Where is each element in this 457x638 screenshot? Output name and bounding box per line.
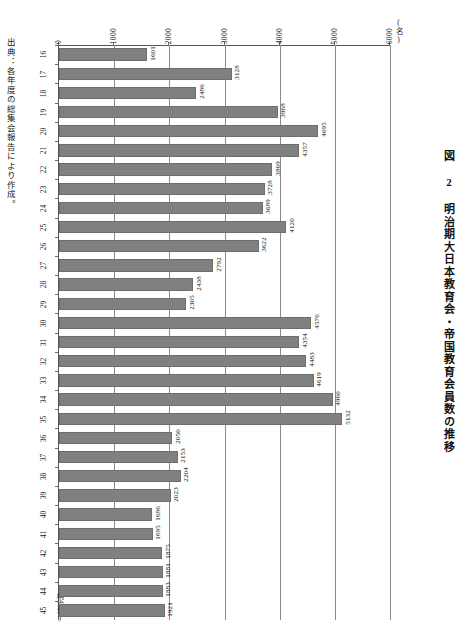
category-label: 40 [39,505,55,524]
category-tick [55,352,59,353]
bar[interactable] [59,528,153,540]
bar[interactable] [59,48,147,60]
value-axis-unit-label: (名) [393,18,404,44]
bar-value-label: 1921 [166,602,174,617]
category-tick [55,122,59,123]
value-axis-tick-label: 4000 [275,28,284,44]
bar-value-label: 3728 [266,180,274,195]
chart-row: 344960 [59,390,390,409]
bar[interactable] [59,163,272,175]
category-tick [55,428,59,429]
bar-value-label: 1881 [164,563,172,578]
category-label: 41 [39,525,55,544]
value-axis-tick-label: 2000 [164,28,173,44]
bar-value-label: 5132 [344,410,352,425]
bar[interactable] [59,202,263,214]
chart-row: 233728 [59,179,390,198]
bar[interactable] [59,259,213,271]
chart-row: 441883 [59,582,390,601]
category-label: 29 [39,295,55,314]
category-tick [55,141,59,142]
category-tick [55,313,59,314]
bar-value-label: 2792 [215,257,223,272]
category-tick [55,45,59,46]
value-axis-tick-label: 5000 [330,28,339,44]
bar[interactable] [59,547,162,559]
category-tick [55,237,59,238]
bar[interactable] [59,566,163,578]
category-tick [55,294,59,295]
bar-value-label: 4357 [301,142,309,157]
bar-value-label: 2023 [172,487,180,502]
bar[interactable] [59,413,342,425]
bar[interactable] [59,221,286,233]
bar[interactable] [59,374,314,386]
bar[interactable] [59,470,181,482]
bar[interactable] [59,508,152,520]
chart-row: 193968 [59,103,390,122]
chart-row: 161601 [59,45,390,64]
category-label: 37 [39,448,55,467]
chart-row: 263622 [59,237,390,256]
category-label: 18 [39,84,55,103]
bar[interactable] [59,451,178,463]
category-label: 26 [39,237,55,256]
chart-row: 401686 [59,505,390,524]
bar[interactable] [59,278,193,290]
category-tick [55,333,59,334]
bar-value-label: 3869 [274,161,282,176]
category-label: 30 [39,314,55,333]
category-tick [55,256,59,257]
category-tick [55,160,59,161]
chart-row: 282438 [59,275,390,294]
category-label: 33 [39,371,55,390]
bar-value-label: 4120 [288,218,296,233]
bar-value-label: 4960 [334,391,342,406]
bar[interactable] [59,432,172,444]
value-axis-tick-label: 1000 [109,28,118,44]
bar[interactable] [59,393,333,405]
bar[interactable] [59,298,186,310]
category-label: 16 [39,45,55,64]
chart-row: 182486 [59,83,390,102]
chart-row: 362050 [59,428,390,447]
chart-row: 223869 [59,160,390,179]
bar[interactable] [59,489,171,501]
bar[interactable] [59,355,306,367]
figure-title: 図 2 明治期大日本教育会・帝国教育会員数の推移 [443,150,455,453]
category-tick [55,543,59,544]
bar-value-label: 4576 [313,314,321,329]
bar[interactable] [59,336,299,348]
category-tick [55,601,59,602]
category-label: 35 [39,410,55,429]
chart-row: 304576 [59,313,390,332]
bar[interactable] [59,144,299,156]
category-tick [55,390,59,391]
category-label: 34 [39,390,55,409]
chart-row: 372153 [59,448,390,467]
category-label: 31 [39,333,55,352]
chart-row: 314354 [59,333,390,352]
bar-value-label: 4483 [308,352,316,367]
bar-value-label: 1875 [164,544,172,559]
category-tick [55,218,59,219]
bar[interactable] [59,240,259,252]
bar[interactable] [59,183,265,195]
bar-value-label: 2204 [182,467,190,482]
bar-value-label: 3622 [260,237,268,252]
bar[interactable] [59,317,311,329]
chart-row: 355132 [59,409,390,428]
category-label: 20 [39,122,55,141]
category-tick [55,409,59,410]
bar[interactable] [59,106,278,118]
bar[interactable] [59,87,196,99]
bar[interactable] [59,125,318,137]
bar[interactable] [59,68,232,80]
bar[interactable] [59,585,163,597]
category-label: 39 [39,486,55,505]
chart-row: 292305 [59,294,390,313]
chart-row: 243689 [59,198,390,217]
category-label: 22 [39,160,55,179]
bar[interactable] [59,604,165,616]
chart-row: 214357 [59,141,390,160]
